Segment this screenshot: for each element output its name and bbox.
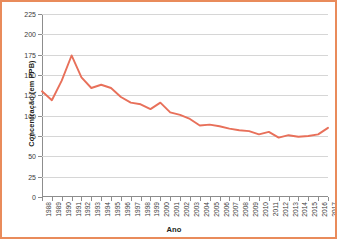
- x-tick-label-2017: 2017: [331, 202, 337, 217]
- x-tick-mark-2015: [308, 197, 309, 201]
- x-tick-mark-2007: [229, 197, 230, 201]
- x-tick-mark-1989: [52, 197, 53, 201]
- x-tick-label-2010: 2010: [262, 202, 269, 217]
- x-tick-mark-2011: [269, 197, 270, 201]
- x-tick-mark-1995: [111, 197, 112, 201]
- y-tick-label-125: 125: [24, 92, 36, 99]
- x-tick-label-1996: 1996: [124, 202, 131, 217]
- x-tick-mark-1990: [62, 197, 63, 201]
- x-tick-mark-1997: [131, 197, 132, 201]
- x-axis-title: Ano: [24, 225, 324, 234]
- x-tick-mark-1994: [101, 197, 102, 201]
- chart-inner: Concentração (em PPB) 025507510012515017…: [2, 2, 335, 237]
- x-tick-label-1988: 1988: [45, 202, 52, 217]
- x-tick-mark-2012: [279, 197, 280, 201]
- x-tick-mark-2008: [239, 197, 240, 201]
- y-tick-label-75: 75: [28, 133, 36, 140]
- x-tick-mark-2004: [200, 197, 201, 201]
- x-tick-mark-2006: [220, 197, 221, 201]
- x-tick-label-2003: 2003: [193, 202, 200, 217]
- x-tick-label-2006: 2006: [223, 202, 230, 217]
- x-tick-mark-1992: [81, 197, 82, 201]
- y-tick-label-200: 200: [24, 31, 36, 38]
- x-tick-mark-2002: [180, 197, 181, 201]
- x-tick-mark-1996: [121, 197, 122, 201]
- x-tick-label-2013: 2013: [292, 202, 299, 217]
- y-tick-label-0: 0: [32, 194, 36, 201]
- x-tick-label-1990: 1990: [65, 202, 72, 217]
- plot-area: 0255075100125150175200225 19881989199019…: [42, 14, 328, 197]
- x-tick-mark-2000: [160, 197, 161, 201]
- x-tick-mark-2009: [249, 197, 250, 201]
- x-tick-label-1998: 1998: [144, 202, 151, 217]
- x-tick-label-2002: 2002: [183, 202, 190, 217]
- x-tick-label-2007: 2007: [232, 202, 239, 217]
- x-tick-label-1993: 1993: [94, 202, 101, 217]
- y-tick-label-150: 150: [24, 72, 36, 79]
- x-tick-label-1991: 1991: [75, 202, 82, 217]
- x-tick-mark-2014: [298, 197, 299, 201]
- x-tick-mark-1988: [42, 197, 43, 201]
- x-tick-mark-2010: [259, 197, 260, 201]
- y-tick-label-225: 225: [24, 11, 36, 18]
- x-tick-label-1999: 1999: [153, 202, 160, 217]
- x-tick-mark-1991: [72, 197, 73, 201]
- x-tick-mark-1993: [91, 197, 92, 201]
- x-tick-mark-1999: [150, 197, 151, 201]
- chart-figure: Concentração (em PPB) 025507510012515017…: [0, 0, 337, 239]
- x-tick-mark-2013: [289, 197, 290, 201]
- x-tick-label-2001: 2001: [173, 202, 180, 217]
- x-tick-mark-1998: [141, 197, 142, 201]
- x-tick-mark-2003: [190, 197, 191, 201]
- x-tick-label-2012: 2012: [282, 202, 289, 217]
- x-tick-label-1992: 1992: [84, 202, 91, 217]
- x-tick-label-2011: 2011: [272, 202, 279, 216]
- y-tick-label-25: 25: [28, 173, 36, 180]
- x-tick-label-2004: 2004: [203, 202, 210, 217]
- y-tick-label-50: 50: [28, 153, 36, 160]
- x-tick-mark-2016: [318, 197, 319, 201]
- x-tick-label-1989: 1989: [55, 202, 62, 217]
- x-tick-label-2009: 2009: [252, 202, 259, 217]
- x-tick-mark-2017: [328, 197, 329, 201]
- x-tick-label-2005: 2005: [213, 202, 220, 217]
- x-tick-label-1997: 1997: [134, 202, 141, 217]
- x-tick-label-2016: 2016: [321, 202, 328, 217]
- x-tick-mark-2005: [210, 197, 211, 201]
- x-tick-mark-2001: [170, 197, 171, 201]
- x-tick-label-2008: 2008: [242, 202, 249, 217]
- x-tick-label-1995: 1995: [114, 202, 121, 217]
- x-tick-label-2014: 2014: [301, 202, 308, 217]
- y-tick-label-100: 100: [24, 112, 36, 119]
- x-tick-label-2015: 2015: [311, 202, 318, 217]
- y-tick-label-175: 175: [24, 51, 36, 58]
- x-tick-label-1994: 1994: [104, 202, 111, 217]
- x-tick-label-2000: 2000: [163, 202, 170, 217]
- series-line-concentracao: [42, 55, 328, 137]
- line-series-svg: [42, 14, 328, 197]
